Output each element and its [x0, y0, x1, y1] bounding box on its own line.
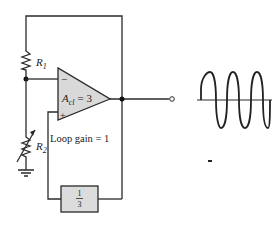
- ground-icon: [18, 170, 34, 176]
- stray-mark: [208, 160, 212, 162]
- noninverting-feedback-wire: [48, 112, 61, 199]
- sine-wave-output: [197, 72, 272, 128]
- inverting-input-symbol: −: [61, 73, 67, 85]
- feedback-denominator: 3: [78, 200, 82, 209]
- output-node: [120, 97, 125, 102]
- circuit-diagram: R1 R2 − + Acl= 3 Loop gain = 1 1 3: [0, 0, 280, 227]
- feedback-numerator: 1: [78, 189, 82, 198]
- variable-arrow-icon: [30, 130, 35, 136]
- noninverting-input-symbol: +: [60, 110, 66, 121]
- output-terminal: [170, 97, 175, 102]
- loop-gain-label: Loop gain = 1: [50, 133, 109, 144]
- resistor-r1: [22, 50, 30, 79]
- resistor-r2: [17, 130, 35, 170]
- r2-label: R2: [35, 140, 47, 155]
- r1-label: R1: [35, 56, 47, 71]
